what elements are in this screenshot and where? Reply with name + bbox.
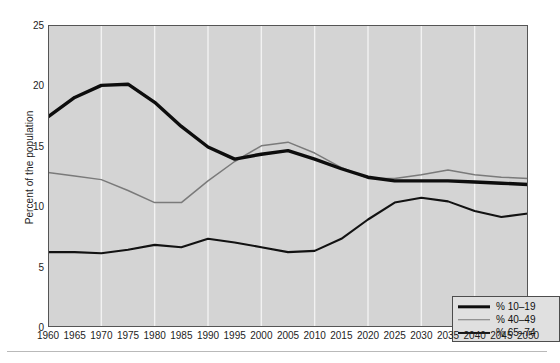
x-tick-label: 2000 xyxy=(250,330,272,341)
y-tick-label: 20 xyxy=(26,80,44,91)
legend-item: % 40–49 xyxy=(457,313,555,326)
x-tick-label: 2020 xyxy=(357,330,379,341)
x-tick-label: 1975 xyxy=(117,330,139,341)
x-tick-label: 2040 xyxy=(464,330,486,341)
y-axis-tick-labels: 0510152025 xyxy=(26,0,44,363)
x-tick-label: 1995 xyxy=(224,330,246,341)
x-tick-label: 1980 xyxy=(144,330,166,341)
cropped-header-text xyxy=(0,0,553,5)
y-tick-label: 5 xyxy=(26,261,44,272)
y-tick-label: 15 xyxy=(26,140,44,151)
x-tick-label: 2045 xyxy=(490,330,512,341)
x-tick-label: 2015 xyxy=(330,330,352,341)
x-tick-label: 1970 xyxy=(90,330,112,341)
x-tick-label: 1965 xyxy=(64,330,86,341)
x-tick-label: 2005 xyxy=(277,330,299,341)
x-tick-label: 2050 xyxy=(517,330,539,341)
x-tick-label: 1990 xyxy=(197,330,219,341)
x-tick-label: 2010 xyxy=(304,330,326,341)
y-tick-label: 25 xyxy=(26,20,44,31)
plot-background xyxy=(48,25,528,327)
x-tick-label: 2030 xyxy=(410,330,432,341)
x-tick-label: 2035 xyxy=(437,330,459,341)
plot-area: % 10–19 % 40–49 % 65–74 xyxy=(48,25,528,327)
legend-swatch-40-49 xyxy=(457,314,491,326)
legend-item: % 10–19 xyxy=(457,300,555,313)
plot-svg xyxy=(48,25,528,327)
x-axis-tick-labels: 1960196519701975198019851990199520002005… xyxy=(0,330,553,346)
y-tick-label: 10 xyxy=(26,201,44,212)
legend-label-40-49: % 40–49 xyxy=(491,314,535,325)
legend-swatch-10-19 xyxy=(457,301,491,313)
x-tick-label: 1985 xyxy=(170,330,192,341)
legend-label-10-19: % 10–19 xyxy=(491,301,535,312)
footer-divider xyxy=(7,351,547,352)
x-tick-label: 2025 xyxy=(384,330,406,341)
x-tick-label: 1960 xyxy=(37,330,59,341)
